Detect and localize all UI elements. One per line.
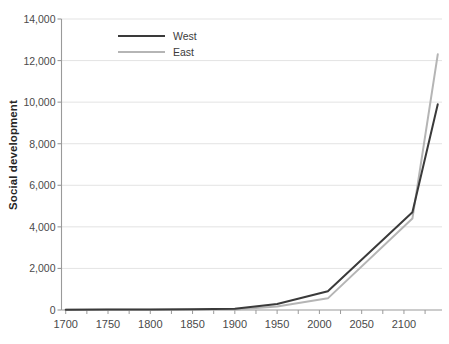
figure-caption: [14, 338, 314, 344]
grid-lines: [62, 19, 443, 268]
series-line-east: [66, 54, 438, 309]
series-line-west: [66, 104, 438, 309]
plot-area: [0, 0, 449, 344]
chart-figure: Social development 02,0004,0006,0008,000…: [0, 0, 449, 344]
y-axis-ticks: [58, 19, 62, 310]
